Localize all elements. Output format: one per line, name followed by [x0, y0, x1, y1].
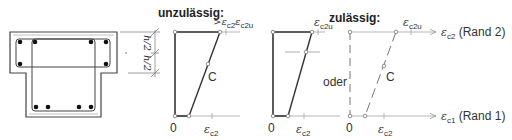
cross-section — [10, 32, 127, 117]
axis-label-rand-2: εc2 (Rand 2) — [441, 26, 505, 41]
label-ec2-1: εc2 — [204, 124, 218, 138]
label-ec2-3: εc2 — [378, 124, 392, 138]
dim-label-upper: h/2 — [142, 35, 152, 51]
origin-label-3: 0 — [346, 122, 353, 134]
strain-diagram-invalid — [173, 29, 240, 119]
label-ec2u-3: εc2u — [403, 17, 422, 31]
origin-label-1: 0 — [170, 122, 177, 134]
separator-oder: oder — [323, 76, 347, 88]
label-ec2u-1: εc2u — [235, 17, 253, 30]
origin-label-2: 0 — [268, 122, 275, 134]
label-ec2-2: εc2 — [296, 124, 310, 138]
label-exceeds-ec2: >εc2 — [213, 17, 235, 30]
centroid-label-1: C — [208, 71, 217, 83]
strain-diagram-figure — [0, 0, 512, 140]
heading-valid: zulässig: — [329, 12, 380, 24]
dim-label-lower: h/2 — [142, 55, 152, 71]
axis-label-rand-1: εc1 (Rand 1) — [441, 110, 505, 125]
strain-diagram-valid — [271, 29, 340, 119]
centroid-label-3: C — [386, 71, 395, 83]
dimension-line — [120, 28, 160, 77]
label-ec2u-2: εc2u — [314, 17, 333, 31]
